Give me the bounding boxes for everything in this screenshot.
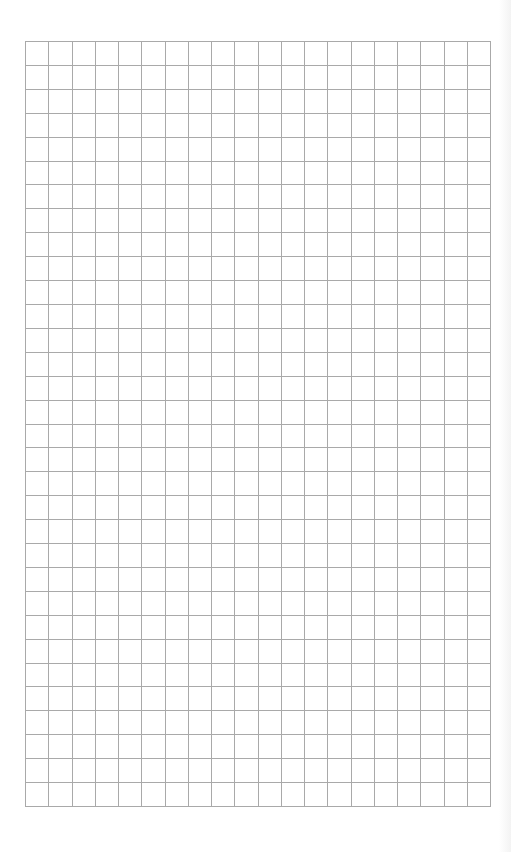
grid-cell — [259, 209, 282, 233]
grid-cell — [375, 735, 398, 759]
grid-cell — [398, 616, 421, 640]
grid-cell — [26, 185, 49, 209]
grid-cell — [352, 377, 375, 401]
grid-cell — [166, 162, 189, 186]
grid-cell — [352, 90, 375, 114]
grid-cell — [96, 353, 119, 377]
grid-cell — [352, 472, 375, 496]
grid-cell — [212, 90, 235, 114]
grid-cell — [189, 257, 212, 281]
grid-cell — [73, 138, 96, 162]
grid-cell — [398, 353, 421, 377]
grid-cell — [259, 592, 282, 616]
grid-cell — [49, 281, 72, 305]
grid-cell — [26, 257, 49, 281]
grid-cell — [26, 138, 49, 162]
grid-cell — [421, 209, 444, 233]
grid-cell — [142, 640, 165, 664]
grid-cell — [328, 42, 351, 66]
grid-cell — [235, 185, 258, 209]
grid-cell — [235, 209, 258, 233]
grid-cell — [235, 138, 258, 162]
grid-cell — [96, 66, 119, 90]
grid-cell — [468, 162, 491, 186]
grid-cell — [73, 711, 96, 735]
grid-cell — [398, 759, 421, 783]
grid-cell — [49, 377, 72, 401]
grid-cell — [259, 329, 282, 353]
grid-cell — [421, 425, 444, 449]
grid-cell — [421, 114, 444, 138]
grid-cell — [421, 257, 444, 281]
grid-cell — [142, 544, 165, 568]
grid-cell — [26, 353, 49, 377]
grid-cell — [166, 329, 189, 353]
grid-cell — [49, 305, 72, 329]
grid-cell — [328, 568, 351, 592]
grid-cell — [259, 664, 282, 688]
grid-cell — [259, 568, 282, 592]
grid-cell — [166, 138, 189, 162]
grid-cell — [259, 305, 282, 329]
grid-cell — [26, 305, 49, 329]
grid-cell — [212, 305, 235, 329]
grid-cell — [468, 496, 491, 520]
grid-cell — [305, 759, 328, 783]
grid-cell — [305, 401, 328, 425]
grid-cell — [352, 448, 375, 472]
grid-cell — [259, 759, 282, 783]
grid-cell — [235, 425, 258, 449]
grid-cell — [189, 664, 212, 688]
grid-cell — [398, 66, 421, 90]
grid-cell — [26, 377, 49, 401]
grid-cell — [328, 233, 351, 257]
grid-cell — [212, 735, 235, 759]
grid-cell — [328, 353, 351, 377]
grid-cell — [96, 664, 119, 688]
grid-cell — [305, 735, 328, 759]
grid-cell — [445, 66, 468, 90]
grid-cell — [421, 233, 444, 257]
grid-cell — [119, 42, 142, 66]
grid-cell — [142, 377, 165, 401]
grid-cell — [73, 114, 96, 138]
grid-cell — [235, 114, 258, 138]
grid-cell — [119, 66, 142, 90]
grid-cell — [212, 664, 235, 688]
grid-cell — [96, 209, 119, 233]
grid-cell — [421, 472, 444, 496]
grid-cell — [189, 377, 212, 401]
grid-cell — [96, 185, 119, 209]
grid-cell — [305, 448, 328, 472]
grid-cell — [421, 90, 444, 114]
grid-cell — [189, 616, 212, 640]
grid-cell — [212, 377, 235, 401]
grid-cell — [73, 42, 96, 66]
grid-cell — [282, 114, 305, 138]
grid-cell — [352, 233, 375, 257]
grid-cell — [73, 496, 96, 520]
grid-cell — [235, 735, 258, 759]
grid-cell — [282, 496, 305, 520]
grid-cell — [49, 90, 72, 114]
grid-cell — [305, 592, 328, 616]
grid-cell — [328, 185, 351, 209]
grid-cell — [212, 568, 235, 592]
grid-cell — [212, 616, 235, 640]
grid-cell — [119, 401, 142, 425]
grid-cell — [189, 735, 212, 759]
grid-cell — [375, 711, 398, 735]
grid-cell — [212, 496, 235, 520]
grid-cell — [421, 664, 444, 688]
grid-cell — [235, 759, 258, 783]
grid-cell — [468, 568, 491, 592]
grid-cell — [305, 114, 328, 138]
grid-cell — [166, 711, 189, 735]
grid-cell — [468, 592, 491, 616]
grid-cell — [282, 42, 305, 66]
grid-cell — [119, 162, 142, 186]
grid-cell — [49, 544, 72, 568]
grid-cell — [375, 568, 398, 592]
grid-cell — [398, 42, 421, 66]
grid-cell — [468, 377, 491, 401]
